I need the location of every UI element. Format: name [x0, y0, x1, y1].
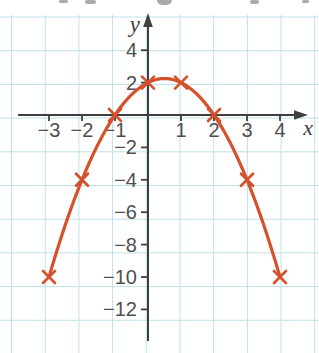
y-tick-label: −12	[103, 298, 137, 320]
x-tick-label: 4	[274, 119, 285, 141]
x-tick-label: 1	[175, 119, 186, 141]
y-tick-label: −8	[114, 234, 137, 256]
y-tick-label: −6	[114, 201, 137, 223]
y-tick-label: −2	[114, 136, 137, 158]
parabola-graph: −3−2−1123442−2−4−6−8−10−12yx	[0, 0, 319, 353]
x-tick-label: −2	[71, 119, 94, 141]
x-axis-label: x	[302, 115, 313, 140]
y-tick-label: −4	[114, 169, 137, 191]
x-tick-label: 3	[241, 119, 252, 141]
graph-page: −3−2−1123442−2−4−6−8−10−12yx	[0, 0, 319, 353]
y-tick-label: −10	[103, 266, 137, 288]
y-axis-label: y	[128, 12, 141, 37]
y-tick-label: 4	[126, 39, 137, 61]
x-tick-label: −3	[38, 119, 61, 141]
y-axis-arrow	[143, 13, 153, 27]
